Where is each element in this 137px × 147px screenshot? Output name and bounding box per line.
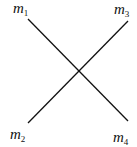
crossing-lines-diagram: m1 m3 m2 m4 xyxy=(0,0,137,147)
label-m3: m3 xyxy=(114,1,130,19)
line-m2-m3 xyxy=(28,21,128,123)
label-m1: m1 xyxy=(13,0,28,18)
line-m1-m4 xyxy=(28,19,128,121)
label-m2: m2 xyxy=(10,126,25,144)
label-m4: m4 xyxy=(113,129,129,147)
